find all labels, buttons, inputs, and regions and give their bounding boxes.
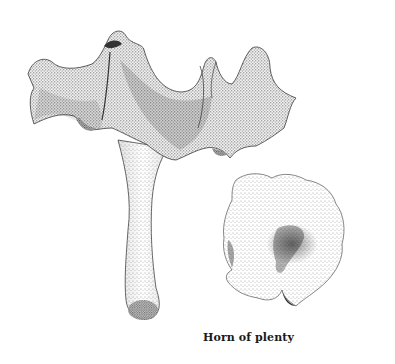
mushroom-top-view — [223, 174, 344, 306]
figure-caption: Horn of plenty — [203, 331, 294, 344]
stem-base — [128, 300, 158, 320]
mushroom-illustration — [0, 0, 395, 364]
